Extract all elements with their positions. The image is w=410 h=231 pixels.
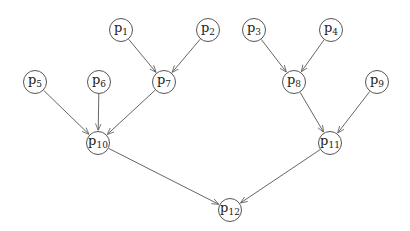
node-label: p6 bbox=[92, 73, 106, 89]
node-p6: p6 bbox=[87, 70, 111, 94]
edge-p10-p12 bbox=[109, 148, 219, 204]
node-p1: p1 bbox=[109, 18, 133, 42]
node-label: p7 bbox=[157, 73, 171, 89]
node-p11: p11 bbox=[318, 131, 342, 155]
node-p5: p5 bbox=[23, 70, 47, 94]
node-label-subscript: 1 bbox=[122, 27, 128, 37]
tree-diagram: p1p2p3p4p5p6p7p8p9p10p11p12 bbox=[0, 0, 410, 231]
node-p9: p9 bbox=[365, 70, 389, 94]
node-label-subscript: 7 bbox=[165, 79, 171, 89]
node-p12: p12 bbox=[218, 198, 242, 222]
edge-p8-p11 bbox=[300, 92, 324, 132]
edge-p4-p8 bbox=[301, 40, 324, 72]
node-p2: p2 bbox=[196, 18, 220, 42]
edge-p6-p10 bbox=[98, 94, 99, 131]
node-label: p2 bbox=[201, 21, 215, 37]
node-label-subscript: 9 bbox=[378, 79, 384, 89]
node-label: p5 bbox=[28, 73, 42, 89]
node-p10: p10 bbox=[86, 131, 110, 155]
edge-p2-p7 bbox=[172, 39, 200, 72]
node-label: p8 bbox=[287, 73, 301, 89]
node-label-subscript: 4 bbox=[332, 27, 338, 37]
node-p4: p4 bbox=[319, 18, 343, 42]
node-label-subscript: 8 bbox=[295, 79, 301, 89]
edge-p7-p10 bbox=[107, 90, 155, 134]
node-label: p12 bbox=[220, 201, 240, 217]
edge-p3-p8 bbox=[261, 40, 286, 73]
edge-p9-p11 bbox=[338, 92, 370, 134]
node-label: p10 bbox=[88, 134, 108, 150]
node-label-subscript: 5 bbox=[36, 79, 42, 89]
edge-p1-p7 bbox=[129, 39, 156, 72]
node-label: p1 bbox=[114, 21, 128, 37]
node-label: p3 bbox=[247, 21, 261, 37]
node-label: p11 bbox=[320, 134, 340, 150]
node-label: p4 bbox=[324, 21, 338, 37]
node-label: p9 bbox=[370, 73, 384, 89]
node-p8: p8 bbox=[282, 70, 306, 94]
node-label-subscript: 6 bbox=[100, 79, 106, 89]
edge-p5-p10 bbox=[44, 90, 89, 134]
node-p7: p7 bbox=[152, 70, 176, 94]
node-p3: p3 bbox=[242, 18, 266, 42]
node-label-subscript: 2 bbox=[209, 27, 215, 37]
node-label-subscript: 12 bbox=[228, 207, 239, 217]
node-label-subscript: 11 bbox=[328, 140, 339, 150]
node-label-subscript: 3 bbox=[255, 27, 261, 37]
node-label-subscript: 10 bbox=[96, 140, 107, 150]
edge-p11-p12 bbox=[240, 150, 320, 203]
